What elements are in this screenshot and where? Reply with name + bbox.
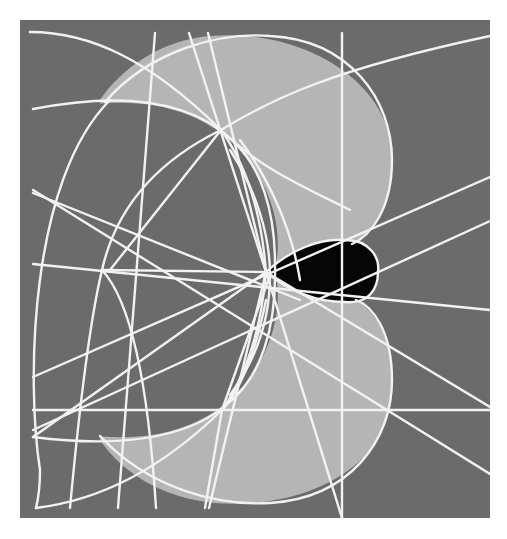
diagram-canvas xyxy=(0,0,507,539)
geometric-diagram xyxy=(0,0,507,539)
